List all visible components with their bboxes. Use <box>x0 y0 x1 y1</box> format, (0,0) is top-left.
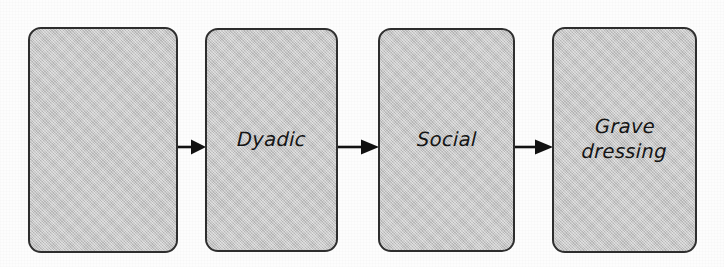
flow-node-phase-4[interactable]: Grave dressing <box>552 27 697 253</box>
flow-node-label-phase-4: Grave dressing <box>575 115 674 164</box>
flow-node-label-phase-2: Dyadic <box>231 128 313 153</box>
flow-node-phase-3[interactable]: Social <box>378 28 515 252</box>
flow-diagram: Dyadic Social Grave dressing <box>0 0 724 267</box>
flow-arrow-phase-1-to-phase-2 <box>178 138 206 156</box>
flow-arrow-phase-3-to-phase-4 <box>515 138 553 156</box>
flow-node-label-phase-3: Social <box>410 128 482 153</box>
flow-arrow-phase-2-to-phase-3 <box>338 138 379 156</box>
flow-node-phase-1[interactable] <box>28 27 178 253</box>
flow-node-phase-2[interactable]: Dyadic <box>205 28 338 252</box>
